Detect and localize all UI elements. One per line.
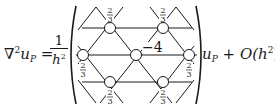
diag-8 — [176, 7, 194, 30]
svg-text:2: 2 — [160, 88, 165, 97]
node-top-right — [158, 23, 169, 34]
weight-left: 2 3 — [79, 61, 87, 79]
error-close-paren: ) — [273, 45, 275, 63]
svg-text:3: 3 — [160, 15, 165, 24]
left-paren — [71, 6, 76, 104]
node-center — [131, 50, 142, 61]
rhs-variable: u — [202, 45, 212, 63]
plus-sign: + — [223, 45, 236, 63]
node-left — [78, 50, 89, 61]
weight-right: 2 3 — [185, 61, 193, 79]
weight-top-right: 2 3 — [159, 6, 167, 24]
laplacian-hex-stencil-equation: ∇2uP = 1 h2 — [0, 0, 275, 109]
error-term: O(h — [240, 45, 268, 63]
weight-top-left: 2 3 — [106, 6, 114, 24]
svg-text:3: 3 — [107, 97, 112, 106]
diag-10 — [176, 80, 194, 103]
svg-text:2: 2 — [186, 61, 191, 70]
svg-text:3: 3 — [107, 15, 112, 24]
weight-bottom-left: 2 3 — [106, 88, 114, 106]
svg-text:2: 2 — [107, 88, 112, 97]
node-bottom-right — [158, 77, 169, 88]
svg-text:2: 2 — [80, 61, 85, 70]
weight-center: −4 — [142, 39, 163, 55]
diag-7 — [78, 7, 96, 30]
node-bottom-left — [105, 77, 116, 88]
node-right — [184, 50, 195, 61]
weight-bottom-right: 2 3 — [159, 88, 167, 106]
equation-rhs: uP + O(h2) — [202, 45, 275, 64]
rhs-subscript: P — [212, 54, 218, 64]
svg-text:3: 3 — [80, 70, 85, 79]
diag-9 — [78, 80, 96, 103]
svg-text:3: 3 — [160, 97, 165, 106]
node-top-left — [105, 23, 116, 34]
svg-text:2: 2 — [107, 6, 112, 15]
svg-text:3: 3 — [186, 70, 191, 79]
svg-text:2: 2 — [160, 6, 165, 15]
